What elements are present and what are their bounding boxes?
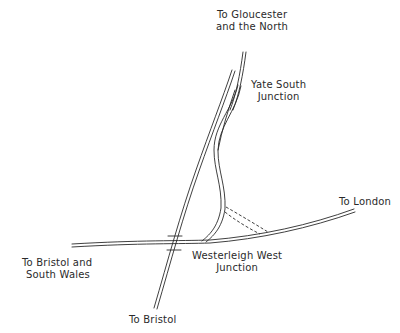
label-gloucester: To Gloucester and the North <box>216 9 288 33</box>
label-yate-south-junction: Yate South Junction <box>251 79 306 103</box>
label-westerleigh-line1: Westerleigh West <box>192 250 282 262</box>
label-bristol-line1: To Bristol <box>129 314 176 326</box>
junction-diagram <box>0 0 400 333</box>
label-london: To London <box>339 196 391 208</box>
label-bristol-wales-line1: To Bristol and <box>22 257 92 269</box>
label-london-line1: To London <box>339 196 391 208</box>
east-west-line <box>72 209 355 247</box>
label-bristol: To Bristol <box>129 314 176 326</box>
label-westerleigh-line2: Junction <box>192 262 282 274</box>
label-bristol-wales-line2: South Wales <box>22 269 92 281</box>
label-gloucester-line1: To Gloucester <box>216 9 288 21</box>
label-yate-line2: Junction <box>251 91 306 103</box>
disused-chord <box>225 207 268 234</box>
label-yate-line1: Yate South <box>251 79 306 91</box>
label-westerleigh-west-junction: Westerleigh West Junction <box>192 250 282 274</box>
label-gloucester-line2: and the North <box>216 21 288 33</box>
label-bristol-south-wales: To Bristol and South Wales <box>22 257 92 281</box>
